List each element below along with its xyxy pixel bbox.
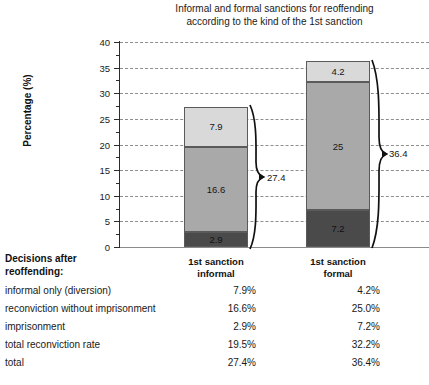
y-tick-5 <box>114 221 120 222</box>
y-tick-label-30: 30 <box>82 88 110 99</box>
y-tick-minor-225 <box>116 132 120 133</box>
chart-figure: Informal and formal sanctions for reoffe… <box>0 0 429 385</box>
x-category-label-formal-line-1: 1st sanction <box>278 256 398 268</box>
table-header-stub-line-2: reoffending: <box>5 265 165 278</box>
bar-segment-informal-diversion: 7.9 <box>184 107 248 147</box>
y-tick-label-15: 15 <box>82 165 110 176</box>
chart-title-line-1: Informal and formal sanctions for reoffe… <box>120 3 429 16</box>
y-tick-0 <box>114 247 120 248</box>
y-tick-minor-325 <box>116 80 120 81</box>
table-header-stub-line-1: Decisions after <box>5 252 165 265</box>
x-category-label-informal: 1st sanction informal <box>156 256 276 279</box>
table-row-label-0: informal only (diversion) <box>5 285 111 296</box>
table-cell-formal-1: 25.0% <box>320 303 380 314</box>
y-tick-label-20: 20 <box>82 140 110 151</box>
chart-title: Informal and formal sanctions for reoffe… <box>120 3 429 28</box>
table-row-label-2: imprisonment <box>5 321 65 332</box>
y-tick-minor-75 <box>116 209 120 210</box>
y-tick-15 <box>114 170 120 171</box>
y-tick-label-40: 40 <box>82 37 110 48</box>
brace-label-informal-total: 27.4 <box>267 172 286 183</box>
y-tick-25 <box>114 119 120 120</box>
x-category-label-formal: 1st sanction formal <box>278 256 398 279</box>
x-category-label-informal-line-2: informal <box>156 268 276 280</box>
y-tick-minor-375 <box>116 55 120 56</box>
y-tick-minor-175 <box>116 157 120 158</box>
bar-segment-formal-diversion: 4.2 <box>306 61 370 83</box>
table-cell-formal-0: 4.2% <box>320 285 380 296</box>
y-tick-35 <box>114 68 120 69</box>
y-tick-label-35: 35 <box>82 63 110 74</box>
x-category-label-formal-line-2: formal <box>278 268 398 280</box>
table-cell-informal-3: 19.5% <box>196 339 256 350</box>
y-tick-minor-25 <box>116 234 120 235</box>
table-header-stub: Decisions after reoffending: <box>5 252 165 278</box>
table-cell-formal-3: 32.2% <box>320 339 380 350</box>
y-tick-40 <box>114 42 120 43</box>
gridline-40 <box>120 42 429 43</box>
bar-segment-informal-imprisonment: 2.9 <box>184 232 248 247</box>
table-cell-formal-2: 7.2% <box>320 321 380 332</box>
y-tick-30 <box>114 93 120 94</box>
table-cell-informal-4: 27.4% <box>196 357 256 368</box>
table-cell-informal-2: 2.9% <box>196 321 256 332</box>
y-tick-minor-275 <box>116 106 120 107</box>
table-cell-informal-1: 16.6% <box>196 303 256 314</box>
y-axis-title: Percentage (%) <box>22 51 33 171</box>
brace-label-formal-total: 36.4 <box>389 148 408 159</box>
bar-segment-formal-reconviction: 25 <box>306 82 370 210</box>
brace-formal-total <box>368 55 390 253</box>
table-row-label-1: reconviction without imprisonment <box>5 303 156 314</box>
y-tick-20 <box>114 145 120 146</box>
table-row-label-4: total <box>5 357 24 368</box>
brace-informal-total <box>246 100 268 254</box>
y-tick-minor-125 <box>116 183 120 184</box>
table-cell-informal-0: 7.9% <box>196 285 256 296</box>
y-tick-10 <box>114 196 120 197</box>
y-tick-label-5: 5 <box>82 216 110 227</box>
table-row-label-3: total reconviction rate <box>5 339 100 350</box>
bar-segment-formal-imprisonment: 7.2 <box>306 210 370 247</box>
y-tick-label-10: 10 <box>82 191 110 202</box>
bar-segment-informal-reconviction: 16.6 <box>184 147 248 232</box>
table-cell-formal-4: 36.4% <box>320 357 380 368</box>
x-category-label-informal-line-1: 1st sanction <box>156 256 276 268</box>
y-tick-label-25: 25 <box>82 114 110 125</box>
chart-title-line-2: according to the kind of the 1st sanctio… <box>120 16 429 29</box>
